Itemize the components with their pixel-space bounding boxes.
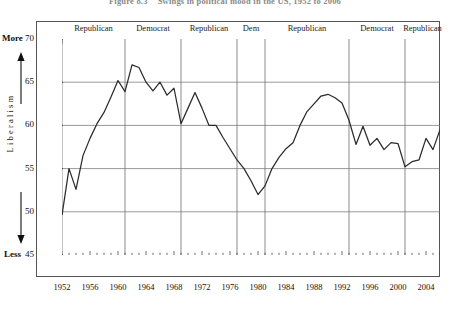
figure-caption: Swings in political mood in the US, 1952… <box>158 0 341 6</box>
x-axis: 1952195619601964196819721976198019841988… <box>0 282 450 296</box>
figure-number: Figure 8.3 <box>109 0 148 6</box>
arrow-down-icon <box>16 192 26 244</box>
party-control-band: RepublicanDemocratRepublicanDemRepublica… <box>37 22 439 39</box>
x-tick-label: 1960 <box>105 282 131 292</box>
y-axis-title: Liberalism <box>5 93 15 153</box>
y-axis: More Less Liberalism 706560555045 <box>0 0 36 318</box>
mood-line <box>62 65 440 215</box>
gridlines <box>62 82 440 212</box>
x-tick-label: 1980 <box>245 282 271 292</box>
x-tick-label: 1992 <box>329 282 355 292</box>
party-band-label: Republican <box>383 23 450 33</box>
x-tick-label: 1996 <box>357 282 383 292</box>
chart-plot-area: RepublicanDemocratRepublicanDemRepublica… <box>36 21 440 277</box>
y-tick-label: 50 <box>25 207 34 216</box>
x-tick-label: 1984 <box>273 282 299 292</box>
x-tick-label: 1964 <box>133 282 159 292</box>
x-tick-label: 1968 <box>161 282 187 292</box>
party-band-label: Republican <box>267 23 347 33</box>
x-tick-label: 2000 <box>385 282 411 292</box>
x-tick-label: 1952 <box>49 282 75 292</box>
x-tick-label: 1972 <box>189 282 215 292</box>
party-divider-lines <box>125 39 405 255</box>
y-axis-more-label: More <box>2 33 23 43</box>
y-axis-less-label: Less <box>4 249 21 259</box>
y-tick-label: 55 <box>25 164 34 173</box>
figure-title: Figure 8.3Swings in political mood in th… <box>0 0 450 7</box>
y-tick-label: 45 <box>25 250 34 259</box>
line-chart <box>62 39 440 255</box>
axis-tickmarks <box>62 39 440 255</box>
y-tick-label: 60 <box>25 120 34 129</box>
x-tick-label: 1976 <box>217 282 243 292</box>
x-tick-label: 2004 <box>413 282 439 292</box>
y-tick-label: 65 <box>25 77 34 86</box>
y-tick-label: 70 <box>25 34 34 43</box>
x-tick-label: 1956 <box>77 282 103 292</box>
x-tick-label: 1988 <box>301 282 327 292</box>
